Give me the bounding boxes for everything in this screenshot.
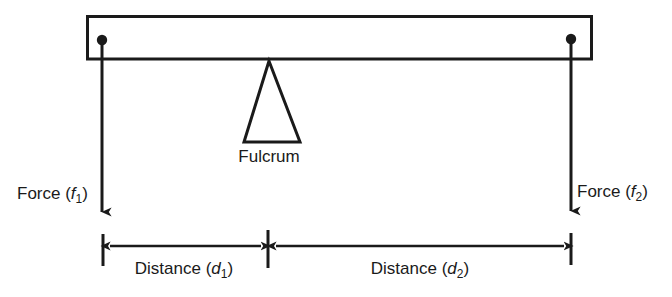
force-right-label: Force (f2) [577, 182, 648, 204]
force-right-label-prefix: Force ( [577, 182, 631, 201]
lever-beam [88, 17, 592, 60]
force-left-label-prefix: Force ( [17, 184, 71, 203]
distance-d1-label: Distance (d1) [135, 259, 233, 281]
left-pivot-point [97, 35, 107, 45]
lever-diagram: Fulcrum Force (f1) Force (f2) Distance (… [0, 0, 672, 297]
fulcrum-label: Fulcrum [238, 147, 299, 166]
force-right-label-suffix: ) [642, 182, 648, 201]
fulcrum-triangle [244, 61, 300, 142]
force-left-label-suffix: ) [82, 184, 88, 203]
distance-d1-label-suffix: ) [228, 259, 234, 278]
distance-d2-label-prefix: Distance ( [371, 259, 448, 278]
lever-diagram-canvas: Fulcrum Force (f1) Force (f2) Distance (… [0, 0, 672, 297]
distance-d2-label: Distance (d2) [371, 259, 469, 281]
distance-d2-label-suffix: ) [464, 259, 470, 278]
force-left-label: Force (f1) [17, 184, 88, 206]
right-pivot-point [566, 34, 576, 44]
distance-d1-label-prefix: Distance ( [135, 259, 212, 278]
